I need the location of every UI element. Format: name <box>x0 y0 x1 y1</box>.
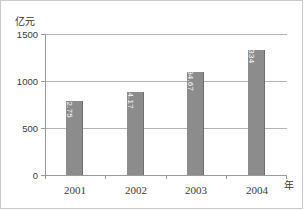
y-tick-label-1500: 1500 <box>17 29 38 40</box>
bar-value-label-2002: 884.17 <box>126 83 135 109</box>
x-tick-label-2004: 2004 <box>246 184 268 196</box>
x-tick-2 <box>166 175 167 179</box>
gridline-1500 <box>45 34 287 35</box>
x-tick-3 <box>226 175 227 179</box>
y-tick-1000 <box>41 81 45 82</box>
x-axis-unit-label: 年 <box>284 177 294 192</box>
y-tick-label-500: 500 <box>22 123 38 134</box>
bar-value-label-2003: 1094.67 <box>186 61 195 91</box>
y-tick-500 <box>41 128 45 129</box>
bar-2002[interactable]: 884.17 <box>127 92 144 175</box>
x-tick-label-2001: 2001 <box>64 184 86 196</box>
x-tick-label-2003: 2003 <box>185 184 207 196</box>
bar-2003[interactable]: 1094.67 <box>187 72 204 175</box>
chart-figure: 亿元 1500 1000 500 0 782.75 884.17 <box>0 0 303 209</box>
y-tick-label-1000: 1000 <box>17 76 38 87</box>
x-tick-1 <box>105 175 106 179</box>
bar-value-label-2004: 1334 <box>247 45 256 64</box>
bar-2004[interactable]: 1334 <box>248 50 265 175</box>
y-axis-unit-label: 亿元 <box>15 13 35 28</box>
bar-2001[interactable]: 782.75 <box>66 101 83 175</box>
y-axis-line <box>45 34 46 176</box>
x-tick-0 <box>45 175 46 179</box>
plot-area: 1500 1000 500 0 782.75 884.17 1094.67 13… <box>45 34 287 176</box>
y-tick-label-0: 0 <box>33 170 38 181</box>
bar-value-label-2001: 782.75 <box>65 92 74 118</box>
y-tick-1500 <box>41 34 45 35</box>
x-tick-label-2002: 2002 <box>125 184 147 196</box>
